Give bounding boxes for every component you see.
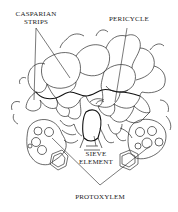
label-pericycle-text: PERICYCLE	[104, 15, 154, 23]
right-xylem-cells	[120, 100, 171, 170]
label-casparian-line2: STRIPS	[8, 18, 64, 26]
label-casparian-strips: CASPARIAN STRIPS	[8, 10, 64, 26]
label-sieve-line2: ELEMENT	[74, 158, 118, 166]
cortex-cells	[19, 30, 165, 93]
endodermis-cells	[26, 72, 150, 112]
label-sieve-line1: SIEVE	[74, 150, 118, 158]
cell-drawing	[0, 0, 178, 212]
label-casparian-line1: CASPARIAN	[8, 10, 64, 18]
root-cross-section-diagram: CASPARIAN STRIPS PERICYCLE SIEVE ELEMENT…	[0, 0, 178, 212]
label-protoxylem-text: PROTOXYLEM	[68, 193, 132, 201]
pericycle-cells	[26, 90, 150, 123]
label-pericycle: PERICYCLE	[104, 15, 154, 23]
label-sieve-element: SIEVE ELEMENT	[74, 150, 118, 166]
phloem-cells	[60, 99, 132, 150]
label-protoxylem: PROTOXYLEM	[68, 193, 132, 201]
left-xylem-cells	[11, 101, 68, 170]
